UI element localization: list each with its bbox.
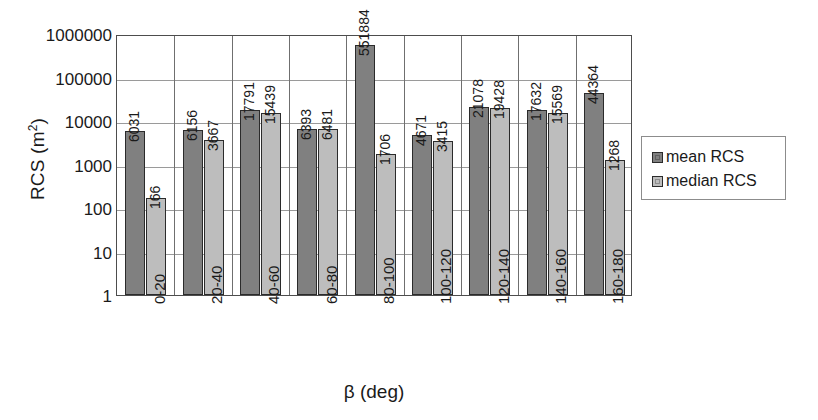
gridline-vertical bbox=[346, 36, 347, 295]
y-tick-label-100: 100 bbox=[8, 201, 112, 218]
value-label-mean-rcs-40-60: 17791 bbox=[242, 82, 256, 121]
value-label-mean-rcs-20-40: 6156 bbox=[185, 110, 199, 141]
value-label-mean-rcs-0-20: 6031 bbox=[127, 110, 141, 141]
bar-mean-rcs-80-100 bbox=[355, 45, 375, 295]
x-tick-label-100-120: 100-120 bbox=[438, 249, 453, 304]
value-label-median-rcs-60-80: 6481 bbox=[320, 109, 334, 140]
x-tick-label-40-60: 40-60 bbox=[266, 266, 281, 304]
x-tick-label-120-140: 120-140 bbox=[496, 249, 511, 304]
y-axis-tick-labels: 1000000100000100001000100101 bbox=[0, 0, 112, 420]
value-label-median-rcs-160-180: 1268 bbox=[607, 140, 621, 171]
y-tick-label-1000: 1000 bbox=[8, 158, 112, 175]
legend-label-mean: mean RCS bbox=[666, 149, 744, 165]
bar-mean-rcs-120-140 bbox=[469, 107, 489, 295]
x-tick-label-0-20: 0-20 bbox=[152, 274, 167, 304]
bar-mean-rcs-40-60 bbox=[240, 110, 260, 295]
value-label-mean-rcs-120-140: 21078 bbox=[471, 79, 485, 118]
y-tick-label-1000000: 1000000 bbox=[8, 27, 112, 44]
gridline-vertical bbox=[289, 36, 290, 295]
chart-legend: mean RCSmedian RCS bbox=[641, 136, 786, 200]
value-label-median-rcs-0-20: 166 bbox=[148, 186, 162, 209]
value-label-median-rcs-140-160: 15569 bbox=[550, 85, 564, 124]
legend-swatch-icon-median bbox=[652, 176, 663, 187]
x-tick-label-140-160: 140-160 bbox=[553, 249, 568, 304]
rcs-bar-chart: RCS (m2) 1000000100000100001000100101 60… bbox=[0, 0, 818, 420]
value-label-mean-rcs-80-100: 551884 bbox=[357, 10, 371, 57]
gridline-vertical bbox=[404, 36, 405, 295]
value-label-median-rcs-40-60: 15439 bbox=[263, 85, 277, 124]
value-label-mean-rcs-100-120: 4671 bbox=[414, 115, 428, 146]
value-label-mean-rcs-140-160: 17632 bbox=[529, 82, 543, 121]
x-tick-label-20-40: 20-40 bbox=[209, 266, 224, 304]
gridline-vertical bbox=[518, 36, 519, 295]
bar-mean-rcs-140-160 bbox=[527, 110, 547, 295]
x-tick-label-80-100: 80-100 bbox=[381, 257, 396, 304]
bar-mean-rcs-160-180 bbox=[584, 93, 604, 295]
gridline-vertical bbox=[576, 36, 577, 295]
y-tick-label-10: 10 bbox=[8, 245, 112, 262]
value-label-median-rcs-120-140: 19428 bbox=[492, 81, 506, 120]
gridline-vertical bbox=[232, 36, 233, 295]
gridline-vertical bbox=[174, 36, 175, 295]
bar-mean-rcs-20-40 bbox=[183, 130, 203, 295]
y-tick-label-1: 1 bbox=[8, 288, 112, 305]
bar-mean-rcs-100-120 bbox=[412, 135, 432, 295]
bar-mean-rcs-60-80 bbox=[297, 129, 317, 295]
value-label-median-rcs-80-100: 1706 bbox=[378, 134, 392, 165]
x-axis-title: β (deg) bbox=[116, 381, 632, 403]
bar-mean-rcs-0-20 bbox=[125, 131, 145, 295]
gridline-vertical bbox=[461, 36, 462, 295]
legend-item-mean[interactable]: mean RCS bbox=[652, 145, 785, 169]
y-tick-label-100000: 100000 bbox=[8, 71, 112, 88]
legend-swatch-icon-mean bbox=[652, 152, 663, 163]
x-tick-label-60-80: 60-80 bbox=[324, 266, 339, 304]
value-label-mean-rcs-160-180: 44364 bbox=[586, 65, 600, 104]
value-label-median-rcs-100-120: 3415 bbox=[435, 121, 449, 152]
y-tick-label-10000: 10000 bbox=[8, 114, 112, 131]
value-label-mean-rcs-60-80: 6393 bbox=[299, 109, 313, 140]
legend-item-median[interactable]: median RCS bbox=[652, 169, 785, 193]
legend-label-median: median RCS bbox=[666, 173, 757, 189]
x-tick-label-160-180: 160-180 bbox=[610, 249, 625, 304]
value-label-median-rcs-20-40: 3667 bbox=[206, 120, 220, 151]
